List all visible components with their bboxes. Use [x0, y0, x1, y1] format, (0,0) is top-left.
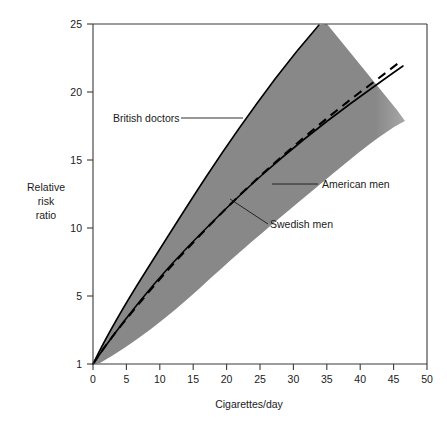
x-tick-label-5: 5	[123, 373, 129, 385]
x-tick-label-45: 45	[388, 373, 400, 385]
y-tick-label-15: 15	[70, 154, 82, 166]
y-tick-label-20: 20	[70, 86, 82, 98]
x-tick-label-15: 15	[187, 373, 199, 385]
x-axis-title: Cigarettes/day	[215, 398, 283, 410]
annotation-label-american-men: American men	[322, 178, 390, 190]
x-axis-tick-labels: 0 5 10 15 20 25 30 35 40 45 50	[90, 373, 433, 385]
y-tick-label-25: 25	[70, 18, 82, 30]
y-tick-label-5: 5	[76, 290, 82, 302]
y-axis-title-line-2: risk	[38, 195, 55, 207]
y-tick-label-10: 10	[70, 222, 82, 234]
annotation-label-british-doctors: British doctors	[113, 112, 180, 124]
y-axis-ticks	[87, 24, 93, 364]
y-axis-title: Relative risk ratio	[27, 181, 65, 221]
x-tick-label-20: 20	[221, 373, 233, 385]
x-tick-label-40: 40	[354, 373, 366, 385]
annotation-label-swedish-men: Swedish men	[270, 218, 333, 230]
uncertainty-band	[93, 24, 405, 364]
x-tick-label-0: 0	[90, 373, 96, 385]
x-axis-ticks	[93, 364, 427, 370]
y-axis-title-line-1: Relative	[27, 181, 65, 193]
x-tick-label-25: 25	[254, 373, 266, 385]
y-axis-title-line-3: ratio	[36, 209, 57, 221]
x-tick-label-50: 50	[421, 373, 433, 385]
x-tick-label-10: 10	[154, 373, 166, 385]
x-tick-label-35: 35	[321, 373, 333, 385]
x-tick-label-30: 30	[288, 373, 300, 385]
y-axis-tick-labels: 25 20 15 10 5 1	[70, 18, 82, 370]
y-tick-label-1: 1	[76, 358, 82, 370]
chart-figure: 25 20 15 10 5 1 0 5 10 15 20	[0, 0, 447, 426]
band-fill-area	[93, 24, 405, 364]
annotation-british-doctors: British doctors	[113, 112, 243, 124]
risk-ratio-chart: 25 20 15 10 5 1 0 5 10 15 20	[0, 0, 447, 426]
